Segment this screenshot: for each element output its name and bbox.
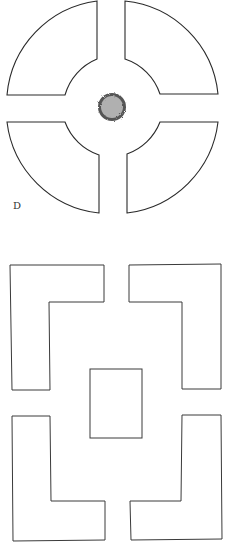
circular-plan: D bbox=[7, 1, 218, 213]
bed-bottom-right bbox=[127, 122, 218, 213]
bed-top-right bbox=[125, 1, 218, 94]
center-shrub-icon bbox=[98, 93, 126, 121]
bed-top-left bbox=[7, 1, 97, 95]
garden-plan-diagrams: D bbox=[0, 0, 231, 550]
l-bed-bottom-right bbox=[130, 415, 222, 540]
center-rect-bed bbox=[90, 369, 142, 438]
figure-label: D bbox=[13, 200, 21, 211]
square-plan bbox=[10, 264, 222, 541]
l-bed-top-right bbox=[129, 264, 221, 389]
